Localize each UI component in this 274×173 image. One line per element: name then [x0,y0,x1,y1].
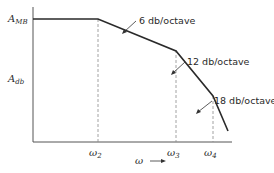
y-label-amb: AMB [8,14,28,27]
slope-label-18db: 18 db/octave [214,96,274,106]
y-label-adb: Adb [8,74,24,87]
bode-plot [0,0,274,173]
tick-omega2: ω2 [89,148,102,161]
x-axis-arrowhead [161,159,166,163]
tick-omega3: ω3 [167,148,180,161]
response-curve [33,19,228,131]
x-axis-label: ω [135,156,143,166]
leader-12db [173,62,185,73]
tick-omega4: ω4 [204,148,217,161]
leader-18db [198,101,212,112]
leader-6db [124,21,136,32]
slope-label-12db: 12 db/octave [187,57,249,67]
slope-label-6db: 6 db/octave [139,16,195,26]
